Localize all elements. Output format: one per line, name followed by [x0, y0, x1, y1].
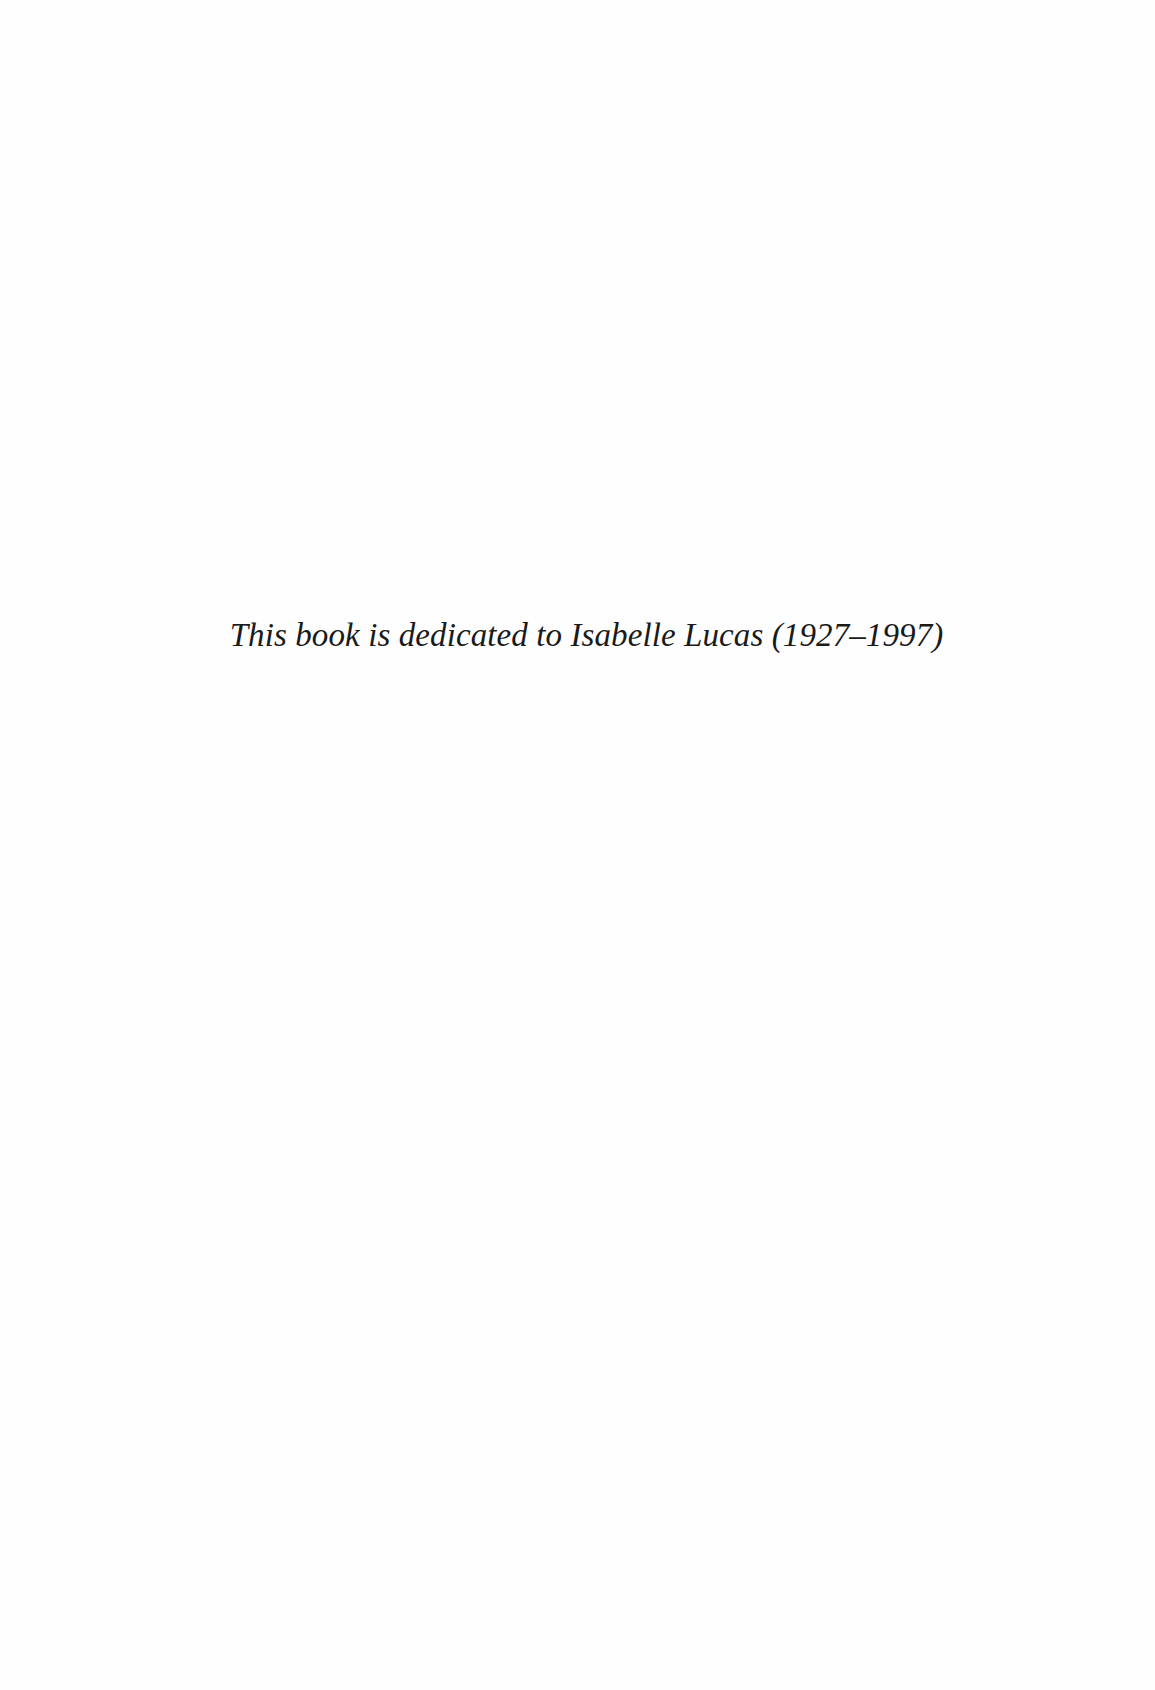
- dedication-text: This book is dedicated to Isabelle Lucas…: [0, 615, 1155, 655]
- book-page: This book is dedicated to Isabelle Lucas…: [0, 0, 1155, 1690]
